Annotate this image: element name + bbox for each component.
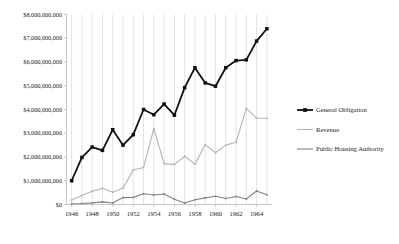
data-point <box>90 145 94 149</box>
data-point <box>152 113 156 117</box>
data-point <box>153 194 155 196</box>
data-point <box>132 196 134 198</box>
x-tick-label-1950: 1950 <box>106 210 120 217</box>
data-point <box>245 198 247 200</box>
legend-label-public-housing-authority: Public Housing Authority <box>316 145 384 152</box>
data-point <box>204 197 206 199</box>
data-point <box>215 195 217 197</box>
data-point <box>81 195 83 197</box>
legend-label-general-obligation: General Obligation <box>316 106 367 113</box>
y-tick-label-1000000000: $1,000,000,000 <box>23 177 62 184</box>
series-line <box>72 191 267 204</box>
data-point <box>153 128 155 130</box>
data-point <box>204 144 206 146</box>
y-tick-label-0: $0 <box>56 201 62 208</box>
data-point <box>265 27 269 31</box>
data-point <box>80 156 84 160</box>
data-point <box>214 84 218 88</box>
data-point <box>245 107 247 109</box>
y-tick-label-8000000000: $8,000,000,000 <box>23 11 62 18</box>
y-tick-label-3000000000: $3,000,000,000 <box>23 129 62 136</box>
data-point <box>234 59 238 63</box>
data-point <box>91 190 93 192</box>
x-axis-tick-labels: 1946194819501952195419561958196019621964 <box>65 205 264 217</box>
data-point <box>256 117 258 119</box>
data-point <box>235 195 237 197</box>
data-point <box>122 197 124 199</box>
data-point <box>194 163 196 165</box>
data-point <box>173 113 177 117</box>
data-point <box>184 202 186 204</box>
data-point <box>266 118 268 120</box>
data-point <box>184 155 186 157</box>
x-tick-label-1958: 1958 <box>188 210 202 217</box>
series-general-obligation <box>70 27 269 183</box>
data-point <box>256 190 258 192</box>
data-point <box>143 167 145 169</box>
x-tick-label-1964: 1964 <box>250 210 264 217</box>
data-point <box>112 191 114 193</box>
data-point <box>193 66 197 70</box>
series-line <box>72 29 267 181</box>
y-tick-label-2000000000: $2,000,000,000 <box>23 153 62 160</box>
series-public-housing-authority <box>71 190 268 205</box>
data-series-group <box>70 27 269 205</box>
x-tick-label-1952: 1952 <box>127 210 140 217</box>
data-point <box>81 203 83 205</box>
data-point <box>215 152 217 154</box>
line-chart: $0$1,000,000,000$2,000,000,000$3,000,000… <box>0 0 399 244</box>
data-point <box>102 201 104 203</box>
series-line <box>72 108 267 200</box>
data-point <box>224 66 228 70</box>
series-revenue <box>71 107 268 201</box>
data-point <box>122 187 124 189</box>
chart-container: $0$1,000,000,000$2,000,000,000$3,000,000… <box>0 0 399 244</box>
data-point <box>194 199 196 201</box>
data-point <box>102 187 104 189</box>
data-point <box>163 163 165 165</box>
data-point <box>255 39 259 43</box>
data-point <box>266 194 268 196</box>
data-point <box>235 141 237 143</box>
data-point <box>162 102 166 106</box>
data-point <box>71 203 73 205</box>
y-tick-label-4000000000: $4,000,000,000 <box>23 106 62 113</box>
x-tick-label-1962: 1962 <box>229 210 242 217</box>
x-tick-label-1960: 1960 <box>209 210 223 217</box>
x-tick-label-1948: 1948 <box>86 210 100 217</box>
data-point <box>225 144 227 146</box>
legend-label-revenue: Revenue <box>316 126 339 133</box>
data-point <box>142 108 146 112</box>
x-tick-label-1956: 1956 <box>168 210 182 217</box>
data-point <box>173 198 175 200</box>
data-point <box>112 202 114 204</box>
y-tick-label-6000000000: $6,000,000,000 <box>23 58 62 65</box>
y-tick-label-7000000000: $7,000,000,000 <box>23 34 62 41</box>
data-point <box>101 149 105 153</box>
data-point <box>173 164 175 166</box>
data-point <box>132 133 136 137</box>
y-axis-tick-labels: $0$1,000,000,000$2,000,000,000$3,000,000… <box>23 11 66 208</box>
y-tick-label-5000000000: $5,000,000,000 <box>23 82 62 89</box>
legend-swatch-marker <box>303 108 307 112</box>
chart-legend: General ObligationRevenuePublic Housing … <box>297 106 384 152</box>
data-point <box>70 179 74 183</box>
data-point <box>111 128 115 132</box>
data-point <box>245 58 249 62</box>
data-point <box>163 193 165 195</box>
data-point <box>143 193 145 195</box>
data-point <box>183 86 187 90</box>
data-point <box>121 143 125 147</box>
x-tick-label-1954: 1954 <box>147 210 161 217</box>
data-point <box>71 199 73 201</box>
data-point <box>132 169 134 171</box>
x-tick-label-1946: 1946 <box>65 210 79 217</box>
data-point <box>203 81 207 85</box>
data-point <box>225 198 227 200</box>
data-point <box>91 202 93 204</box>
